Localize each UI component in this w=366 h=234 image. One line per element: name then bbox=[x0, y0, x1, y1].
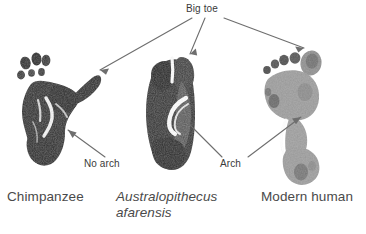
caption-chimpanzee: Chimpanzee bbox=[7, 189, 84, 205]
afarensis-lesser-toes bbox=[151, 61, 173, 91]
arrow-noarch-to-chimpanzee bbox=[68, 130, 105, 157]
human-pressure-patch bbox=[294, 164, 308, 181]
human-toe-dot bbox=[290, 52, 301, 64]
chimpanzee-footprint bbox=[17, 52, 101, 166]
human-pressure-patch bbox=[265, 88, 271, 96]
human-arch-void bbox=[281, 120, 286, 153]
chimp-toe-pad bbox=[38, 68, 45, 76]
caption-australopithecus-line2: afarensis bbox=[116, 205, 217, 221]
label-no-arch: No arch bbox=[84, 158, 120, 169]
arrow-bigtoe-to-modern-human bbox=[224, 18, 304, 53]
arrow-bigtoe-to-australopithecus bbox=[190, 18, 205, 56]
australopithecus-footprint bbox=[146, 57, 195, 170]
label-big-toe: Big toe bbox=[186, 3, 218, 14]
chimp-toe-pad bbox=[28, 69, 35, 77]
footprint-comparison-figure: Big toe No arch Arch Chimpanzee Australo… bbox=[0, 0, 366, 234]
human-pressure-patch bbox=[308, 161, 316, 171]
chimp-toe-pad bbox=[31, 52, 42, 66]
chimp-toe-pad bbox=[17, 71, 25, 80]
chimp-toe-pad bbox=[41, 54, 51, 66]
human-pressure-patch bbox=[298, 83, 313, 101]
human-toe-dot bbox=[271, 59, 279, 68]
human-toe-dot bbox=[279, 55, 289, 65]
caption-australopithecus-afarensis: Australopithecus afarensis bbox=[116, 189, 217, 221]
caption-australopithecus-line1: Australopithecus bbox=[116, 189, 217, 205]
label-arch: Arch bbox=[220, 158, 241, 169]
chimp-toe-pad bbox=[19, 56, 32, 71]
human-toe-dot bbox=[263, 66, 271, 74]
human-pressure-patch bbox=[269, 94, 280, 108]
afarensis-toe-notch bbox=[172, 58, 173, 82]
caption-modern-human: Modern human bbox=[261, 189, 353, 205]
modern-human-footprint bbox=[263, 49, 323, 185]
